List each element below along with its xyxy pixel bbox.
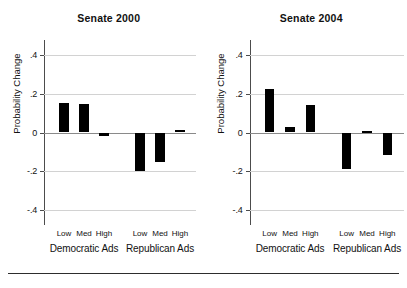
group-axis-label: Republican Ads <box>126 243 194 254</box>
bar <box>135 133 144 172</box>
group-axis-label: Republican Ads <box>333 243 401 254</box>
bar <box>175 130 184 133</box>
category-tick-label: Med <box>282 229 298 238</box>
chart-panel-senate-2004: Senate 2004 Probability Change .4.20-.2-… <box>204 0 407 258</box>
plot-area: .4.20-.2-.4 LowMedHighLowMedHighDemocrat… <box>250 40 404 225</box>
bar-series <box>250 40 404 225</box>
category-tick-label: Med <box>152 229 168 238</box>
y-tick-label: 0 <box>32 128 37 138</box>
y-tick-label: -.2 <box>233 166 243 176</box>
category-tick-label: High <box>379 229 395 238</box>
y-tick-label: .2 <box>30 89 37 99</box>
panel-title: Senate 2000 <box>0 12 204 24</box>
bar <box>99 133 108 137</box>
bar <box>265 89 274 133</box>
footer-divider <box>8 273 399 274</box>
bar <box>342 133 351 169</box>
group-axis-label: Democratic Ads <box>256 243 325 254</box>
y-tick-label: .4 <box>235 50 242 60</box>
panel-title: Senate 2004 <box>204 12 407 24</box>
bar <box>383 133 392 155</box>
y-tick-label: -.2 <box>27 166 37 176</box>
bar <box>59 103 68 132</box>
category-tick-label: Med <box>359 229 375 238</box>
group-axis-label: Democratic Ads <box>50 243 119 254</box>
y-tick-label: 0 <box>238 128 243 138</box>
y-axis-title: Probability Change <box>11 34 22 154</box>
category-tick-label: Low <box>57 229 72 238</box>
category-tick-label: Low <box>339 229 354 238</box>
y-axis-title: Probability Change <box>214 34 225 154</box>
y-tick-label: -.4 <box>27 205 37 215</box>
y-tick-label: .4 <box>30 50 37 60</box>
figure: Senate 2000 Probability Change .4.20-.2-… <box>0 0 407 288</box>
category-tick-label: Low <box>133 229 148 238</box>
panel-container: Senate 2000 Probability Change .4.20-.2-… <box>0 0 407 258</box>
chart-panel-senate-2000: Senate 2000 Probability Change .4.20-.2-… <box>0 0 204 258</box>
bar <box>306 105 315 132</box>
y-tick-label: .2 <box>235 89 242 99</box>
category-tick-label: Low <box>262 229 277 238</box>
category-tick-label: High <box>302 229 318 238</box>
bar <box>362 131 371 133</box>
y-tick-label: -.4 <box>233 205 243 215</box>
category-tick-label: Med <box>76 229 92 238</box>
bar <box>79 104 88 132</box>
category-tick-label: High <box>172 229 188 238</box>
bar <box>285 127 294 133</box>
category-axis: LowMedHighLowMedHighDemocratic AdsRepubl… <box>250 229 404 269</box>
category-tick-label: High <box>96 229 112 238</box>
category-axis: LowMedHighLowMedHighDemocratic AdsRepubl… <box>44 229 196 269</box>
bar <box>155 133 164 162</box>
plot-area: .4.20-.2-.4 LowMedHighLowMedHighDemocrat… <box>44 40 196 225</box>
bar-series <box>44 40 196 225</box>
